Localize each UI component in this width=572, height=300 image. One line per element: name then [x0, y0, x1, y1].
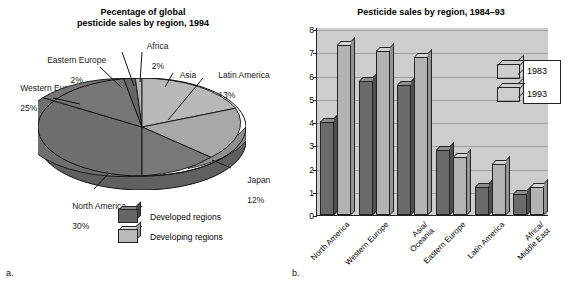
- pie-title-line1: Pecentage of global: [100, 7, 185, 17]
- bar-front-face: [359, 81, 373, 215]
- y-tick-mark: [313, 30, 317, 31]
- legend-label-1993: 1993: [527, 89, 547, 99]
- y-tick-mark: [313, 77, 317, 78]
- legend-swatch-1983: [497, 60, 523, 77]
- bar-africa-middle-east-1993: [530, 187, 544, 215]
- panel-b-bar-chart: Pesticide sales by region, 1984–93 Billi…: [286, 0, 572, 300]
- pie-label-japan-name: Japan: [247, 175, 270, 185]
- pie-label-north-america: North America 30%: [58, 191, 126, 241]
- pie-svg: [38, 78, 246, 190]
- legend-label-developing: Developing regions: [150, 232, 223, 242]
- bar-front-face: [376, 51, 390, 215]
- bar-asia-oceania-1993: [414, 57, 428, 215]
- bar-asia-oceania-1983: [397, 85, 411, 215]
- bar-north-america-1983: [320, 122, 334, 215]
- two-panel-figure: Pecentage of global pesticide sales by r…: [0, 0, 572, 300]
- cube-front-face: [497, 87, 520, 102]
- bar-eastern-europe-1983: [436, 150, 450, 215]
- pie-label-africa-name: Africa: [147, 41, 169, 51]
- bar-front-face: [320, 122, 334, 215]
- bar-latin-america-1983: [475, 187, 489, 215]
- y-tick-mark: [313, 123, 317, 124]
- bar-front-face: [475, 187, 489, 215]
- bar-chart-legend: 1983 1993: [497, 60, 559, 102]
- y-tick-mark: [313, 193, 317, 194]
- panel-a-pie-chart: Pecentage of global pesticide sales by r…: [0, 0, 286, 300]
- bar-western-europe-1993: [376, 51, 390, 215]
- gridline: [317, 30, 548, 31]
- bar-front-face: [414, 57, 428, 215]
- bar-latin-america-1993: [492, 164, 506, 215]
- pie-label-africa: Africa 2%: [133, 31, 168, 81]
- pie-graphic: [38, 78, 246, 190]
- y-tick-mark: [313, 216, 317, 217]
- legend-label-1983: 1983: [527, 66, 547, 76]
- bar-north-america-1993: [337, 45, 351, 215]
- cube-front-face: [118, 209, 138, 223]
- bar-front-face: [530, 187, 544, 215]
- bar-front-face: [337, 45, 351, 215]
- bar-eastern-europe-1993: [453, 157, 467, 215]
- pie-label-eastern-europe-name: Eastern Europe: [47, 55, 106, 65]
- bar-western-europe-1983: [359, 81, 373, 215]
- cube-front-face: [118, 229, 138, 243]
- bar-side-face: [351, 37, 355, 215]
- legend-swatch-1993: [497, 83, 523, 100]
- legend-swatch-developing: [118, 226, 140, 241]
- pie-label-africa-value: 2%: [152, 61, 164, 71]
- bar-front-face: [397, 85, 411, 215]
- bar-side-face: [390, 43, 394, 215]
- bar-front-face: [513, 194, 527, 215]
- bar-chart-title: Pesticide sales by region, 1984–93: [292, 7, 570, 18]
- pie-label-japan-value: 12%: [247, 195, 264, 205]
- caption-b: b.: [292, 268, 300, 278]
- pie-label-western-europe-value: 25%: [20, 103, 37, 113]
- cube-front-face: [497, 64, 520, 79]
- y-tick-mark: [313, 53, 317, 54]
- pie-chart-title: Pecentage of global pesticide sales by r…: [20, 7, 266, 29]
- bar-front-face: [492, 164, 506, 215]
- bar-side-face: [467, 149, 471, 215]
- caption-a: a.: [6, 268, 14, 278]
- pie-title-line2: pesticide sales by region, 1994: [77, 18, 209, 28]
- legend-swatch-developed: [118, 206, 140, 221]
- bar-side-face: [428, 49, 432, 215]
- bar-side-face: [506, 156, 510, 215]
- x-category-label: Africa/ Middle East: [468, 220, 551, 300]
- x-category-label: North America: [275, 220, 352, 297]
- y-tick-mark: [313, 146, 317, 147]
- legend-label-developed: Developed regions: [150, 212, 221, 222]
- bar-africa-middle-east-1983: [513, 194, 527, 215]
- bar-plot-area: 012345678 1983 1993: [316, 28, 548, 216]
- bar-front-face: [453, 157, 467, 215]
- y-tick-mark: [313, 100, 317, 101]
- bar-side-face: [544, 179, 548, 215]
- bar-front-face: [436, 150, 450, 215]
- pie-label-north-america-value: 30%: [72, 221, 89, 231]
- y-tick-mark: [313, 170, 317, 171]
